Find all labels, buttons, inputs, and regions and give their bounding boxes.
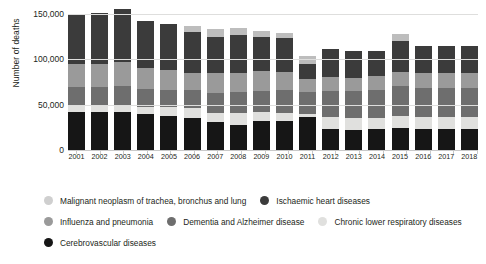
bar-segment (461, 73, 478, 88)
bar-group (68, 14, 478, 150)
bar-segment (207, 73, 224, 93)
bar-segment (137, 114, 154, 150)
bar-2003[interactable] (114, 9, 131, 150)
x-axis-label: 2015 (392, 152, 409, 166)
bar-segment (438, 129, 455, 150)
legend-label: Influenza and pneumonia (60, 217, 153, 227)
bar-segment (68, 14, 85, 64)
legend-label: Chronic lower respiratory diseases (334, 217, 461, 227)
plot-area (68, 14, 478, 150)
y-axis-tick-label: 150,000 (12, 9, 64, 19)
bar-segment (114, 9, 131, 62)
bar-segment (91, 64, 108, 87)
bar-segment (276, 38, 293, 72)
bar-segment (253, 71, 270, 90)
gridline (68, 105, 478, 106)
bar-2002[interactable] (91, 13, 108, 150)
bar-segment (137, 68, 154, 88)
legend-row: Influenza and pneumoniaDementia and Alzh… (44, 211, 474, 232)
bar-2018[interactable] (461, 46, 478, 150)
bar-segment (299, 79, 316, 92)
x-axis-labels: 2001200220032004200520062007200820092010… (68, 152, 478, 166)
bar-segment (415, 129, 432, 150)
bar-segment (160, 24, 177, 71)
bar-segment (137, 107, 154, 114)
bar-2014[interactable] (368, 51, 385, 150)
bar-segment (114, 105, 131, 112)
bar-segment (438, 73, 455, 88)
bar-segment (322, 49, 339, 77)
bar-segment (230, 35, 247, 72)
bar-segment (184, 73, 201, 91)
bar-2001[interactable] (68, 14, 85, 150)
bar-segment (207, 122, 224, 150)
legend-item[interactable]: Malignant neoplasm of trachea, bronchus … (44, 196, 246, 206)
legend-item[interactable]: Dementia and Alzheimer disease (167, 217, 304, 227)
bar-segment (415, 117, 432, 129)
legend-swatch-icon (260, 196, 269, 205)
bar-2009[interactable] (253, 31, 270, 150)
bar-2011[interactable] (299, 56, 316, 150)
x-axis-label: 2018 (461, 152, 478, 166)
x-axis-label: 2016 (415, 152, 432, 166)
bar-segment (368, 76, 385, 90)
bar-segment (392, 116, 409, 128)
bar-2017[interactable] (438, 46, 455, 150)
bar-segment (253, 91, 270, 113)
bar-segment (299, 64, 316, 79)
bar-segment (276, 113, 293, 120)
bar-segment (207, 93, 224, 113)
bar-segment (184, 108, 201, 118)
bar-segment (230, 73, 247, 93)
bar-2005[interactable] (160, 24, 177, 150)
bar-segment (91, 87, 108, 105)
bar-segment (230, 92, 247, 112)
legend-item[interactable]: Ischaemic heart diseases (260, 196, 370, 206)
legend-item[interactable]: Cerebrovascular diseases (44, 238, 156, 248)
bar-segment (276, 121, 293, 150)
bar-segment (299, 92, 316, 114)
bar-segment (461, 117, 478, 129)
bar-segment (207, 113, 224, 123)
bar-segment (322, 77, 339, 91)
bar-segment (207, 37, 224, 73)
bar-segment (184, 118, 201, 150)
bar-segment (91, 106, 108, 113)
bar-segment (114, 62, 131, 86)
x-axis-label: 2003 (114, 152, 131, 166)
chart-legend: Malignant neoplasm of trachea, bronchus … (44, 190, 474, 253)
bar-segment (368, 51, 385, 76)
legend-item[interactable]: Chronic lower respiratory diseases (318, 217, 461, 227)
legend-row: Cerebrovascular diseases (44, 232, 474, 253)
chart-page: Number of deaths 050,000100,000150,000 2… (0, 0, 486, 264)
x-axis-label: 2017 (438, 152, 455, 166)
bar-2004[interactable] (137, 21, 154, 150)
bar-2008[interactable] (230, 28, 247, 150)
bar-2016[interactable] (415, 46, 432, 150)
y-axis-tick-label: 0 (12, 145, 64, 155)
bar-segment (114, 112, 131, 150)
bar-segment (392, 86, 409, 116)
bar-2010[interactable] (276, 33, 293, 150)
bar-2015[interactable] (392, 34, 409, 150)
bar-segment (91, 112, 108, 150)
bar-segment (438, 88, 455, 117)
bar-segment (253, 121, 270, 150)
bar-segment (415, 88, 432, 117)
bar-segment (392, 41, 409, 71)
bar-2013[interactable] (345, 51, 362, 150)
legend-swatch-icon (318, 217, 327, 226)
bar-segment (230, 125, 247, 150)
y-axis-tick-label: 50,000 (12, 100, 64, 110)
bar-2012[interactable] (322, 49, 339, 150)
legend-item[interactable]: Influenza and pneumonia (44, 217, 153, 227)
legend-label: Malignant neoplasm of trachea, bronchus … (60, 196, 246, 206)
bar-2006[interactable] (184, 26, 201, 150)
x-axis-label: 2010 (276, 152, 293, 166)
bar-segment (68, 105, 85, 112)
bar-segment (461, 129, 478, 150)
bar-2007[interactable] (207, 29, 224, 150)
bar-segment (253, 112, 270, 121)
bar-segment (322, 117, 339, 128)
x-axis-label: 2011 (299, 152, 316, 166)
